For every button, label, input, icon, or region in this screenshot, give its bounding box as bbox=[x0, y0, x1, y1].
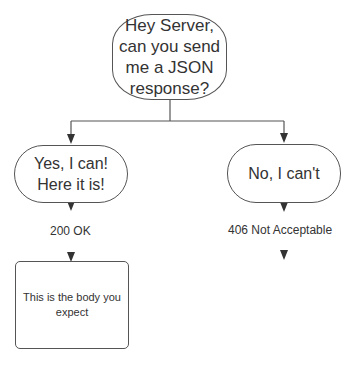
no-node: No, I can't bbox=[227, 144, 341, 203]
no-text: No, I can't bbox=[248, 165, 320, 183]
arrow-to-yes-icon bbox=[67, 134, 75, 144]
yes-text: Yes, I can! Here it is! bbox=[26, 153, 116, 195]
question-text: Hey Server, can you send me a JSON respo… bbox=[113, 15, 226, 99]
arrow-to-no-icon bbox=[280, 133, 288, 143]
body-text: This is the body you expect bbox=[22, 290, 122, 320]
arrow-from-no-icon bbox=[280, 202, 288, 212]
body-node: This is the body you expect bbox=[15, 261, 129, 349]
arrow-406-icon bbox=[280, 250, 288, 260]
question-bubble: Hey Server, can you send me a JSON respo… bbox=[112, 14, 227, 100]
status-406-label: 406 Not Acceptable bbox=[228, 223, 332, 237]
status-200-label: 200 OK bbox=[50, 224, 91, 238]
yes-node: Yes, I can! Here it is! bbox=[14, 145, 128, 203]
